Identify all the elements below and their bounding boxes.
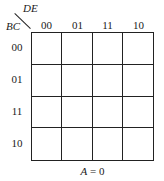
kmap-cell [93,65,123,97]
kmap-cell [32,97,62,129]
kmap-cell [123,65,153,97]
kmap-cell [123,33,153,65]
kmap-cell [62,128,92,160]
row-label: 11 [6,105,28,117]
kmap-cell [32,128,62,160]
row-variable-label: BC [6,20,20,32]
row-label: 00 [6,41,28,53]
column-label: 10 [123,19,154,31]
row-label: 01 [6,73,28,85]
column-variable-label: DE [23,2,38,14]
kmap-cell [32,33,62,65]
kmap-cell [93,128,123,160]
kmap-cell [93,97,123,129]
column-label: 01 [62,19,93,31]
kmap-cell [123,128,153,160]
row-label: 10 [6,137,28,149]
kmap-cell [93,33,123,65]
kmap-cell [62,97,92,129]
kmap-cell [62,33,92,65]
caption-value: = 0 [87,165,104,177]
kmap-cell [32,65,62,97]
map-caption: A = 0 [31,165,154,177]
kmap-cell [62,65,92,97]
column-label: 00 [31,19,62,31]
kmap-grid [31,32,154,161]
kmap-cell [123,97,153,129]
column-label: 11 [92,19,123,31]
